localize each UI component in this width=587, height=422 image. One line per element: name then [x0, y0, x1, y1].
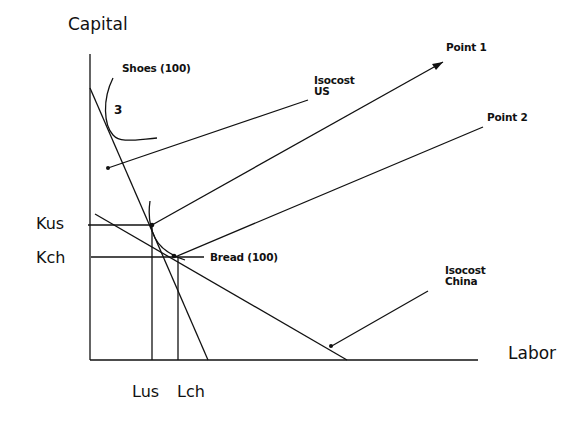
- tick-lus: Lus: [132, 384, 159, 400]
- bread-label: Bread (100): [210, 252, 278, 263]
- isocost-china-pointer: [330, 291, 428, 347]
- isocost-us-line: [90, 88, 208, 360]
- point2-dot: [172, 254, 177, 259]
- point1-pointer: [152, 62, 443, 225]
- tick-kch: Kch: [36, 250, 65, 266]
- x-axis-label: Labor: [508, 345, 556, 362]
- shoes-label: Shoes (100): [122, 63, 191, 74]
- point2-label: Point 2: [487, 112, 528, 123]
- isocost-us-pointer: [108, 100, 308, 168]
- tick-lch: Lch: [177, 384, 205, 400]
- isocost-us-label-line2: US: [314, 86, 355, 97]
- point2-pointer: [175, 127, 483, 257]
- diagram-canvas: [0, 0, 587, 422]
- tick-kus: Kus: [36, 216, 64, 232]
- isocost-china-dot: [329, 344, 333, 348]
- point1-arrowhead: [432, 62, 443, 70]
- isocost-china-label: Isocost China: [445, 265, 486, 287]
- isocost-china-line: [95, 214, 347, 360]
- isocost-us-dot: [106, 166, 110, 170]
- isocost-us-label: Isocost US: [314, 75, 355, 97]
- y-axis-label: Capital: [68, 16, 128, 33]
- shoes-marker: 3: [114, 104, 122, 116]
- point1-label: Point 1: [446, 42, 487, 53]
- point1-dot: [150, 223, 155, 228]
- isocost-china-label-line2: China: [445, 276, 486, 287]
